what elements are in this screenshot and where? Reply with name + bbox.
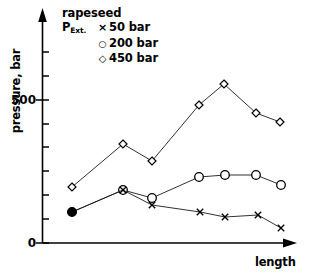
circle-marker-icon: ○: [96, 37, 109, 51]
y-axis-label: pressure, bar: [9, 44, 23, 138]
legend: rapeseed PExt. × 50 bar ○ 200 bar ◇ 450 …: [62, 6, 158, 66]
legend-label-200-bar: 200 bar: [109, 36, 158, 50]
legend-item-450-bar: ◇ 450 bar: [62, 51, 158, 66]
series-200-bar: [72, 171, 285, 212]
legend-label-50-bar: 50 bar: [109, 20, 150, 34]
x-axis-label: length: [255, 255, 296, 269]
y-tick-label-0: 0: [2, 236, 36, 250]
y-axis: [36, 8, 49, 243]
diamond-marker-icon: ◇: [96, 52, 109, 66]
y-tick-label-500: 500: [2, 93, 36, 107]
series-50-bar: [72, 187, 284, 231]
x-axis: [43, 239, 298, 248]
chart-figure: pressure, bar length 500 0 rapeseed PExt…: [0, 0, 309, 277]
cross-marker-icon: ×: [96, 21, 109, 35]
legend-title: rapeseed: [62, 6, 158, 20]
legend-item-50-bar: PExt. × 50 bar: [62, 20, 158, 36]
legend-label-450-bar: 450 bar: [109, 51, 158, 65]
legend-item-200-bar: ○ 200 bar: [62, 36, 158, 51]
legend-param-label: PExt.: [62, 20, 96, 36]
shared-start-marker: [68, 208, 77, 217]
